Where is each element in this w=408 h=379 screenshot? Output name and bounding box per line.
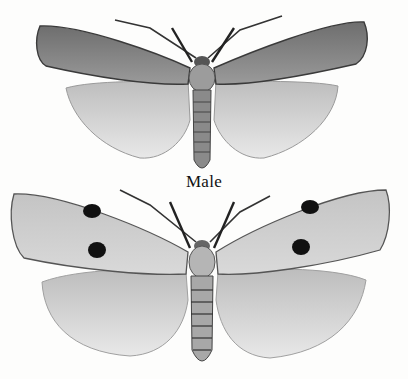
lower-moth <box>11 190 389 361</box>
wing-spot <box>83 204 101 218</box>
wing-spot <box>292 239 310 255</box>
wing-spot <box>301 200 319 214</box>
moth-illustration-plate: Male <box>0 0 408 379</box>
upper-moth <box>37 16 368 168</box>
wing-spot <box>88 242 106 258</box>
figure-caption: Male <box>0 172 408 192</box>
